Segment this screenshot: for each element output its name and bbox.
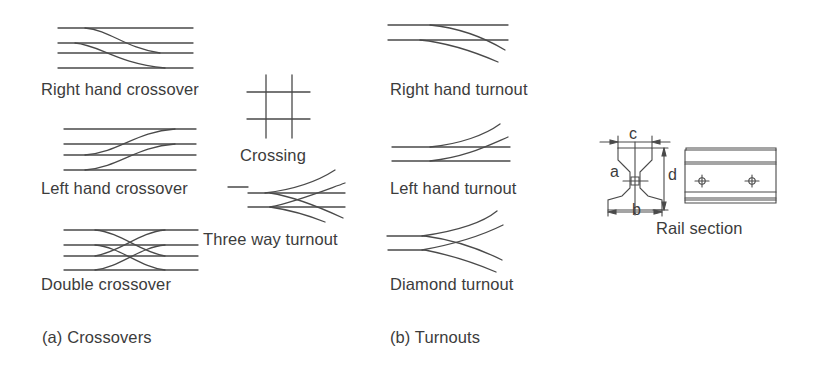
right-hand-turnout-drawing xyxy=(388,25,508,62)
dimension-c-label: c xyxy=(629,126,637,142)
three-way-turnout-label: Three way turnout xyxy=(203,231,338,248)
rail-side-view-drawing xyxy=(685,148,776,203)
rail-section-label: Rail section xyxy=(656,220,743,237)
crossing-label: Crossing xyxy=(240,147,306,164)
right-hand-crossover-label: Right hand crossover xyxy=(41,81,199,98)
double-crossover-drawing xyxy=(64,230,198,270)
dimension-a-label: a xyxy=(610,164,619,180)
diamond-turnout-label: Diamond turnout xyxy=(390,276,514,293)
caption-turnouts: (b) Turnouts xyxy=(390,329,480,346)
crossing-drawing xyxy=(247,75,310,138)
double-crossover-label: Double crossover xyxy=(41,276,171,293)
three-way-turnout-drawing xyxy=(248,170,345,222)
dimension-d-label: d xyxy=(668,167,677,183)
left-hand-crossover-label: Left hand crossover xyxy=(41,180,188,197)
right-hand-crossover-drawing xyxy=(58,28,193,68)
right-hand-turnout-label: Right hand turnout xyxy=(390,81,528,98)
railway-track-diagram: Right hand crossover Crossing Left hand … xyxy=(0,0,813,375)
diamond-turnout-drawing xyxy=(387,211,503,272)
left-hand-turnout-drawing xyxy=(392,124,510,161)
dimension-b-label: b xyxy=(632,202,641,218)
caption-crossovers: (a) Crossovers xyxy=(42,329,152,346)
left-hand-turnout-label: Left hand turnout xyxy=(390,180,516,197)
